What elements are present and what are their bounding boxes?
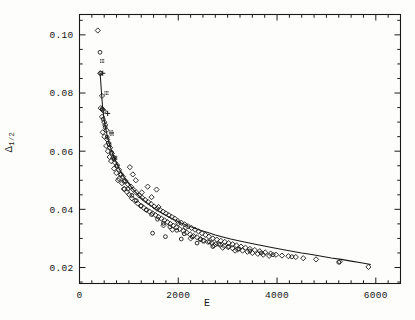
plot-frame [80, 15, 401, 284]
y-tick-label: 0.06 [49, 147, 73, 158]
series-circles [98, 50, 341, 264]
figure-container: 02000400060000.020.040.060.080.10 Δ1/2 E [0, 0, 415, 320]
series-diamonds [95, 28, 371, 270]
scatter-plot: 02000400060000.020.040.060.080.10 [0, 0, 415, 320]
x-axis-label: E [0, 298, 415, 309]
data-points [95, 28, 371, 270]
y-tick-label: 0.10 [49, 30, 73, 41]
y-axis-label: Δ1/2 [4, 132, 16, 153]
fitted-curve [100, 73, 371, 264]
axis-ticks [80, 15, 401, 284]
y-axis-label-wrap: Δ1/2 [8, 128, 38, 168]
y-tick-label: 0.04 [49, 205, 73, 216]
y-axis-label-main: Δ [4, 146, 15, 153]
y-tick-label: 0.02 [49, 263, 73, 274]
y-tick-label: 0.08 [49, 88, 73, 99]
y-axis-label-subscript: 1/2 [8, 132, 16, 146]
